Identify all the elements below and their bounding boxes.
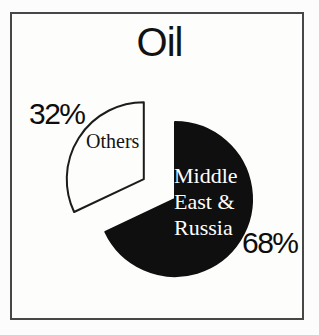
middle-east-russia-slice-label: Middle East & Russia [174,163,248,241]
middle-east-russia-percent-label: 68% [242,228,298,258]
others-percent-label: 32% [29,99,85,129]
others-slice-label: Others [86,131,139,151]
pie-chart [0,0,319,335]
pie-chart-figure: Oil 32% Others Middle East & Russia 68% [0,0,319,335]
